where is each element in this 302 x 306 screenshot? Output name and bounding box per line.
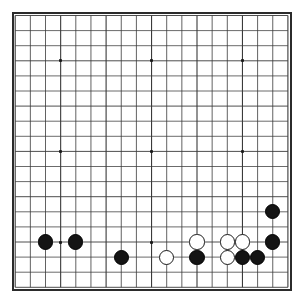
black-stone[interactable] — [235, 250, 250, 265]
white-stone[interactable] — [159, 250, 174, 265]
go-board[interactable] — [0, 0, 302, 306]
white-stone[interactable] — [189, 234, 204, 249]
hoshi-point — [59, 241, 62, 244]
hoshi-point — [150, 241, 153, 244]
white-stone[interactable] — [220, 234, 235, 249]
black-stone[interactable] — [250, 250, 265, 265]
black-stone[interactable] — [265, 234, 280, 249]
black-stone[interactable] — [68, 234, 83, 249]
hoshi-point — [59, 150, 62, 153]
hoshi-point — [241, 150, 244, 153]
white-stone[interactable] — [235, 234, 250, 249]
black-stone[interactable] — [189, 250, 204, 265]
hoshi-point — [241, 59, 244, 62]
hoshi-point — [150, 150, 153, 153]
white-stone[interactable] — [220, 250, 235, 265]
black-stone[interactable] — [38, 234, 53, 249]
black-stone[interactable] — [114, 250, 129, 265]
